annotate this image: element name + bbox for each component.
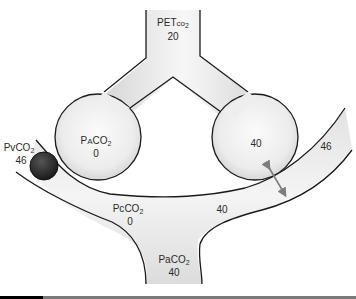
embolus [30,152,58,180]
pAco2-right-value: 40 [250,138,262,149]
pAco2-left-label: PACO2 [81,135,112,147]
pcco2-label: PcCO2 [113,203,144,215]
pvco2-label: PvCO2 [4,142,35,154]
capillary-end-value: 40 [216,204,228,215]
paco2-value: 40 [168,267,180,278]
pAco2-left-value: 0 [93,148,99,159]
petco2-label: PETco2 [157,17,189,29]
dead-space-diagram: PETco2 20 PACO2 0 40 PvCO2 46 PcCO2 0 46… [0,0,356,299]
pcco2-value: 0 [127,216,133,227]
petco2-value: 20 [167,31,179,42]
pvco2-value: 46 [15,155,27,166]
paco2-label: PaCO2 [158,254,189,266]
right-alveolus [212,94,298,180]
capillary-venous-value: 46 [320,141,332,152]
